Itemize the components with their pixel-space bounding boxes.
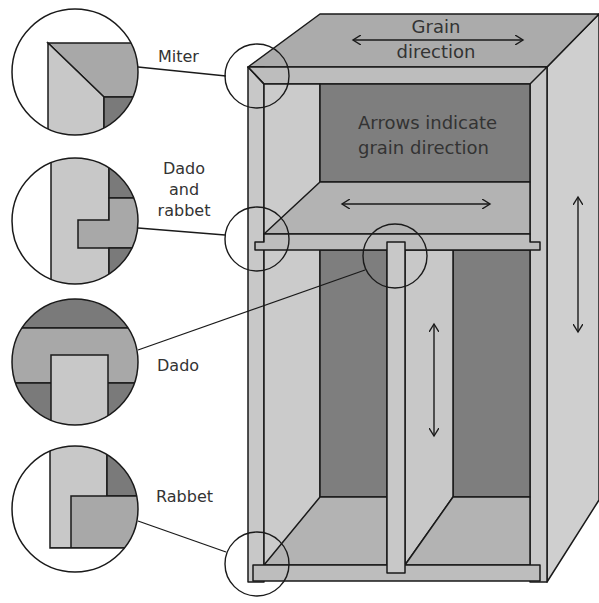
right-side-panel	[547, 14, 599, 582]
right-side-panel-edge	[530, 67, 547, 582]
callout-dado: Dado	[157, 356, 199, 375]
left-side-panel-edge	[248, 67, 264, 582]
callout-miter: Miter	[158, 47, 199, 66]
callout-dado-and-rabbet-line3: rabbet	[158, 201, 211, 220]
callout-dado-and-rabbet-line2: and	[169, 180, 199, 199]
lower-back-panel-right	[453, 250, 530, 497]
cabinet	[248, 14, 599, 582]
interior-left-wall	[264, 84, 320, 567]
back-panel-label-line1: Arrows indicate	[358, 112, 497, 133]
callout-dado-and-rabbet-line1: Dado	[163, 159, 205, 178]
rabbet-detail	[12, 440, 150, 578]
lower-back-panel-left	[320, 250, 387, 497]
grain-label-line1: Grain	[412, 16, 461, 37]
grain-label-line2: direction	[397, 41, 476, 62]
vertical-divider	[387, 242, 405, 573]
cabinet-diagram: Grain direction Arrows indicate grain di…	[0, 0, 599, 603]
callout-rabbet: Rabbet	[156, 487, 213, 506]
top-front-edge	[248, 67, 547, 84]
miter-detail	[12, 9, 145, 142]
dado-and-rabbet-detail	[12, 155, 149, 290]
upper-back-panel	[320, 84, 530, 182]
back-panel-label-line2: grain direction	[358, 137, 489, 158]
dado-detail	[10, 295, 140, 430]
